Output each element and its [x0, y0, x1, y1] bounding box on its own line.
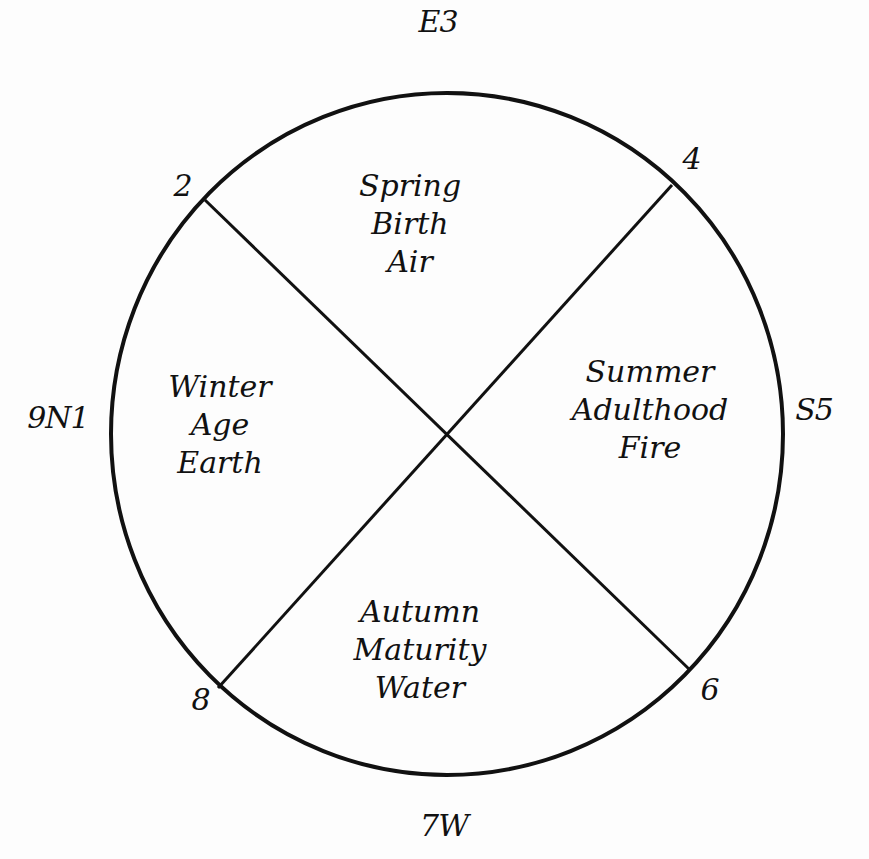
direction-label-south: S5 [795, 395, 833, 425]
quadrant-element: Water [354, 669, 487, 707]
quadrant-season: Spring [359, 167, 461, 205]
quadrant-life-stage: Maturity [354, 631, 487, 669]
direction-label-west: 7W [420, 811, 468, 841]
quadrant-element: Air [359, 243, 461, 281]
quadrant-season: Summer [572, 353, 729, 391]
quadrant-right-summer: Summer Adulthood Fire [572, 353, 729, 467]
point-label-2: 2 [173, 171, 192, 201]
quadrant-season: Winter [168, 368, 271, 406]
direction-label-north: 9N1 [27, 403, 88, 433]
quadrant-top-spring: Spring Birth Air [359, 167, 461, 281]
wheel-diagram [0, 0, 869, 859]
quadrant-life-stage: Birth [359, 205, 461, 243]
point-label-8: 8 [191, 685, 210, 715]
quadrant-element: Earth [168, 444, 271, 482]
direction-label-east: E3 [419, 7, 458, 37]
point-label-4: 4 [682, 144, 701, 174]
quadrant-element: Fire [572, 429, 729, 467]
quadrant-bottom-autumn: Autumn Maturity Water [354, 593, 487, 707]
quadrant-life-stage: Adulthood [572, 391, 729, 429]
quadrant-left-winter: Winter Age Earth [168, 368, 271, 482]
quadrant-season: Autumn [354, 593, 487, 631]
quadrant-life-stage: Age [168, 406, 271, 444]
point-label-6: 6 [700, 675, 719, 705]
